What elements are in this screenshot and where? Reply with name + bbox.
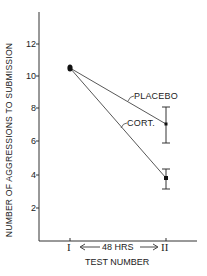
- y-tick-label-4: 4: [22, 170, 36, 180]
- y-tick-label-8: 8: [22, 103, 36, 113]
- point-test-1: [67, 64, 72, 71]
- cort-point-test-2: [164, 176, 168, 180]
- y-tick-label-12: 12: [22, 39, 36, 49]
- x-axis-title: TEST NUMBER: [85, 257, 149, 267]
- y-axis-title-text: NUMBER OF AGGRESSIONS TO SUBMISSION: [4, 43, 14, 237]
- interval-label: 48 HRS: [102, 242, 134, 252]
- cort-label: CORT.: [127, 118, 155, 128]
- y-tick-label-6: 6: [22, 136, 36, 146]
- placebo-label: PLACEBO: [134, 91, 178, 101]
- x-category-1: I: [67, 242, 71, 253]
- x-category-2: II: [161, 242, 168, 253]
- y-tick-label-2: 2: [22, 203, 36, 213]
- y-tick-label-10: 10: [22, 71, 36, 81]
- placebo-point-test-2: [165, 123, 168, 126]
- y-axis-title: NUMBER OF AGGRESSIONS TO SUBMISSION: [2, 40, 16, 240]
